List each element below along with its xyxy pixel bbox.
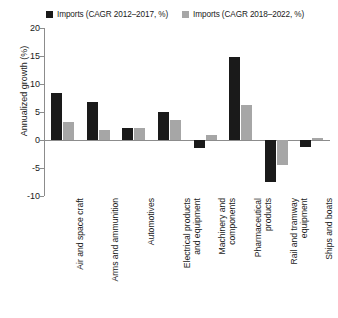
y-tick-mark [40,84,44,85]
y-tick-mark [40,196,44,197]
bar [265,140,276,182]
y-tick-mark [40,168,44,169]
bar-group [259,28,295,196]
x-axis-label: Ships and boats [325,198,338,316]
bar [99,130,110,140]
bar [241,105,252,140]
y-tick-label: 15 [6,51,40,61]
bar [63,122,74,140]
plot-area: 20151050-5-10 [44,28,330,196]
bar [229,57,240,140]
chart-legend: Imports (CAGR 2012–2017, %) Imports (CAG… [46,6,336,22]
legend-label-series-1: Imports (CAGR 2012–2017, %) [57,10,168,19]
x-axis-label: Machinery and components [218,198,244,316]
legend-swatch-series-2 [182,11,189,18]
y-tick-label: 10 [6,79,40,89]
y-tick-mark [40,140,44,141]
x-axis-label: Electrical products and equipment [183,198,209,316]
bar [170,120,181,140]
bar-group [45,28,81,196]
y-tick-mark [40,56,44,57]
bar [87,102,98,140]
x-axis-label: Rail and tramway equipment [290,198,316,316]
bar-group [223,28,259,196]
y-tick-label: -10 [6,191,40,201]
bar [134,128,145,140]
bar [194,140,205,148]
bar-group [188,28,224,196]
y-tick-label: 5 [6,107,40,117]
bar-group [294,28,330,196]
bar [277,140,288,165]
y-tick-label: 20 [6,23,40,33]
x-axis-category-labels: Air and space craftArms and ammunitionAu… [45,198,330,316]
bar [158,112,169,140]
x-axis-label: Pharmaceutical products [254,198,280,316]
legend-entry-imports-2018-2022: Imports (CAGR 2018–2022, %) [182,10,304,19]
bar-group [152,28,188,196]
y-axis-title: Annualized growth (%) [19,11,29,171]
bar [312,138,323,140]
x-axis-label: Arms and ammunition [111,198,137,316]
y-tick-mark [40,112,44,113]
legend-label-series-2: Imports (CAGR 2018–2022, %) [193,10,304,19]
bar-chart: Imports (CAGR 2012–2017, %) Imports (CAG… [0,0,338,318]
y-tick-label: 0 [6,135,40,145]
bar-group [81,28,117,196]
bar [122,128,133,140]
bar [206,135,217,140]
x-axis-label: Air and space craft [76,198,102,316]
bar [51,93,62,140]
legend-entry-imports-2012-2017: Imports (CAGR 2012–2017, %) [46,10,168,19]
x-axis-label: Automotives [147,198,173,316]
legend-swatch-series-1 [46,11,53,18]
bar [300,140,311,147]
y-tick-mark [40,28,44,29]
bar-series-container [45,28,330,196]
y-tick-label: -5 [6,163,40,173]
bar-group [116,28,152,196]
